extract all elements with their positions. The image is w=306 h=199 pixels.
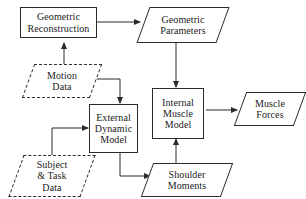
node-geometric-reconstruction-label: Geometric Reconstruction (28, 11, 90, 33)
edge-external-dynamic-to-shoulder (120, 153, 150, 176)
node-geometric-reconstruction[interactable]: Geometric Reconstruction (20, 7, 97, 38)
node-subject-task-data[interactable]: Subject & Task Data (16, 155, 88, 197)
node-shoulder-moments[interactable]: Shoulder Moments (147, 163, 227, 197)
node-internal-muscle-model[interactable]: Internal Muscle Model (152, 88, 204, 139)
node-motion-data[interactable]: Motion Data (28, 64, 96, 98)
node-geometric-parameters[interactable]: Geometric Parameters (143, 7, 223, 43)
node-external-dynamic-model-label: External Dynamic Model (95, 112, 132, 146)
node-muscle-forces-label: Muscle Forces (255, 98, 285, 120)
node-geometric-parameters-label: Geometric Parameters (160, 14, 205, 36)
node-muscle-forces[interactable]: Muscle Forces (240, 92, 300, 126)
flowchart-diagram: Geometric Reconstruction Geometric Param… (0, 0, 306, 199)
node-subject-task-data-label: Subject & Task Data (37, 159, 68, 193)
node-shoulder-moments-label: Shoulder Moments (168, 169, 206, 191)
node-external-dynamic-model[interactable]: External Dynamic Model (89, 104, 138, 153)
node-motion-data-label: Motion Data (47, 70, 77, 92)
node-internal-muscle-model-label: Internal Muscle Model (162, 97, 194, 131)
edge-subject-to-external-dynamic (52, 128, 88, 155)
edge-motion-to-external-dynamic (92, 79, 120, 103)
